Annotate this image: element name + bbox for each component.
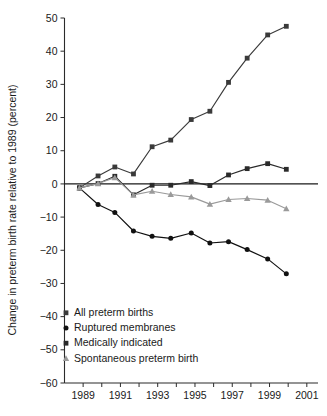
data-point <box>245 56 250 61</box>
data-point <box>245 247 250 252</box>
y-axis-tick-label: −30 <box>40 277 58 289</box>
data-point <box>150 234 155 239</box>
series-line <box>79 188 286 274</box>
data-point <box>112 210 117 215</box>
y-axis-tick-label: 40 <box>46 45 58 57</box>
data-point <box>265 161 270 166</box>
data-point <box>226 239 231 244</box>
y-axis-tick-label: 0 <box>52 178 58 190</box>
y-axis-title: Change in preterm birth rate relative to… <box>6 85 18 336</box>
x-axis-tick-label: 1991 <box>109 389 133 401</box>
x-axis-tick-label: 1993 <box>146 389 170 401</box>
data-point <box>284 271 289 276</box>
data-point <box>207 109 212 114</box>
legend-marker-square-icon <box>64 310 69 315</box>
data-point <box>96 174 101 179</box>
x-axis-tick-label: 1999 <box>258 389 282 401</box>
data-point <box>112 165 117 170</box>
legend-item: Ruptured membranes <box>64 321 176 333</box>
data-point <box>207 183 212 188</box>
legend-marker-square-icon <box>64 341 69 346</box>
chart-legend: All preterm birthsRuptured membranesMedi… <box>63 306 199 364</box>
data-point <box>150 144 155 149</box>
data-point <box>265 256 270 261</box>
data-point <box>284 24 289 29</box>
data-point <box>150 183 155 188</box>
data-point <box>149 188 155 194</box>
y-axis-tick-label: 10 <box>46 144 58 156</box>
y-axis-tick-label: 50 <box>46 12 58 24</box>
x-axis-tick-label: 1995 <box>183 389 207 401</box>
x-axis-tick-label: 2001 <box>295 389 319 401</box>
data-point <box>207 240 212 245</box>
data-point <box>96 202 101 207</box>
legend-item-label: Spontaneous preterm birth <box>74 352 198 364</box>
legend-item: Medically indicated <box>64 336 163 348</box>
data-point <box>265 33 270 38</box>
y-axis-tick-label: 30 <box>46 78 58 90</box>
legend-item: All preterm births <box>64 306 154 318</box>
y-axis-title-label: Change in preterm birth rate relative to… <box>6 85 18 336</box>
data-point <box>131 172 136 177</box>
legend-item: Spontaneous preterm birth <box>63 352 199 364</box>
y-axis-tick-label: −60 <box>40 377 58 389</box>
x-axis-tick-label: 1997 <box>221 389 245 401</box>
data-point <box>189 117 194 122</box>
legend-marker-triangle-icon <box>63 355 69 361</box>
data-point <box>245 166 250 171</box>
y-axis-tick-label: −50 <box>40 343 58 355</box>
data-point <box>284 167 289 172</box>
legend-item-label: Medically indicated <box>74 336 163 348</box>
y-axis-tick-label: −10 <box>40 211 58 223</box>
data-point <box>168 236 173 241</box>
data-point <box>168 138 173 143</box>
y-axis: 50403020100−10−20−30−40−50−60 <box>40 12 65 389</box>
series-line <box>79 178 286 209</box>
x-axis-tick-label: 1989 <box>71 389 95 401</box>
series-line <box>79 26 286 188</box>
legend-marker-circle-icon <box>64 326 69 331</box>
data-series <box>77 24 289 190</box>
y-axis-tick-label: −40 <box>40 310 58 322</box>
legend-item-label: All preterm births <box>74 306 153 318</box>
data-point <box>226 173 231 178</box>
data-point <box>283 206 289 212</box>
data-point <box>189 179 194 184</box>
data-point <box>168 183 173 188</box>
chart-container: Change in preterm birth rate relative to… <box>0 0 327 416</box>
series-layer <box>76 24 289 276</box>
data-point <box>189 231 194 236</box>
data-point <box>226 80 231 85</box>
y-axis-tick-label: 20 <box>46 111 58 123</box>
legend-item-label: Ruptured membranes <box>74 321 176 333</box>
y-axis-tick-label: −20 <box>40 244 58 256</box>
line-chart: Change in preterm birth rate relative to… <box>0 0 327 416</box>
data-point <box>131 229 136 234</box>
x-axis: 1989199119931995199719992001 <box>65 383 319 401</box>
data-series <box>76 174 289 211</box>
